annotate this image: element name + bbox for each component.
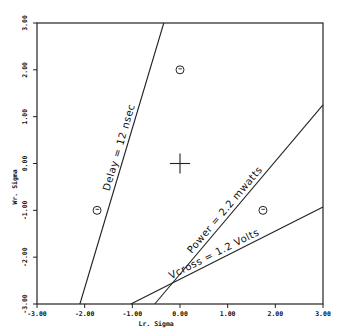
y-tick-label: 2.00 <box>21 62 29 78</box>
x-axis-ticks: -3.00-2.00-1.000.001.002.003.00 <box>27 304 331 318</box>
x-tick-label: -1.00 <box>123 310 143 318</box>
line-label: Delay = 12 nsec <box>101 103 137 192</box>
x-tick-label: -2.00 <box>75 310 95 318</box>
y-tick-label: -2.00 <box>21 247 29 267</box>
x-tick-label: 3.00 <box>315 310 331 318</box>
x-tick-label: 1.00 <box>220 310 236 318</box>
sample-circle-marker <box>176 66 184 74</box>
y-tick-label: -3.00 <box>21 294 29 314</box>
y-tick-label: 3.00 <box>21 15 29 31</box>
x-tick-label: 0.00 <box>172 310 188 318</box>
y-tick-label: 1.00 <box>21 109 29 125</box>
x-tick-label: 2.00 <box>268 310 284 318</box>
x-axis-label: Lr. Sigma <box>139 320 174 328</box>
constraint-line <box>131 207 323 304</box>
sample-circle-marker <box>93 206 101 214</box>
y-axis-ticks: -3.00-2.00-1.000.001.002.003.00 <box>21 15 37 314</box>
sample-circle-marker <box>259 206 267 214</box>
constraint-lines: Delay = 12 nsecPower = 2.2 mwattsVcross … <box>80 23 323 304</box>
y-axis-label: Wr. Sigma <box>11 169 19 204</box>
y-tick-label: -1.00 <box>21 200 29 220</box>
x-tick-label: -3.00 <box>27 310 47 318</box>
y-tick-label: 0.00 <box>21 156 29 172</box>
constraint-line <box>80 23 164 304</box>
constraint-plot: -3.00-2.00-1.000.001.002.003.00 -3.00-2.… <box>0 0 338 333</box>
